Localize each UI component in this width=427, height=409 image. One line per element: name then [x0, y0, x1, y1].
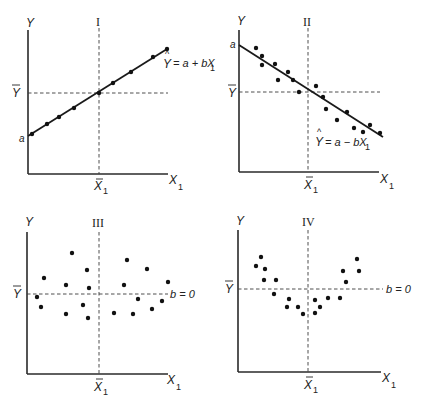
- panel-roman-numeral: II: [303, 15, 311, 29]
- mean-y-label: Y: [225, 282, 234, 296]
- intercept-label: a: [230, 39, 236, 50]
- regression-line: [239, 45, 383, 137]
- regression-panels-figure: Y I Y a X 1 X 1 Y ^ = a + bX 1: [0, 0, 427, 409]
- mean-y-label: Y: [228, 86, 237, 100]
- y-axis-label: Y: [237, 14, 246, 28]
- data-points: [254, 46, 382, 135]
- svg-text:1: 1: [103, 387, 108, 397]
- x-axis-label: X: [379, 172, 389, 186]
- mean-x-label: X: [303, 178, 313, 192]
- svg-text:1: 1: [391, 380, 396, 390]
- panel-4: Y IV Y b = 0 X 1 X 1: [225, 214, 412, 395]
- svg-text:1: 1: [313, 385, 318, 395]
- svg-text:1: 1: [176, 382, 181, 392]
- mean-x-label: X: [93, 380, 103, 394]
- panel-2: Y II a Y X 1 X 1 Y ^ = a − bX 1: [228, 14, 394, 195]
- svg-text:Y: Y: [163, 57, 172, 71]
- svg-text:1: 1: [389, 181, 394, 191]
- data-points: [254, 255, 361, 316]
- x-axis-label: X: [166, 373, 176, 387]
- slope-zero-label: b = 0: [170, 288, 196, 300]
- x-axis-label: X: [381, 371, 391, 385]
- mean-y-label: Y: [13, 287, 22, 301]
- panel-3: Y III Y b = 0 X 1 X 1: [13, 215, 196, 397]
- y-axis-label: Y: [25, 215, 34, 229]
- mean-x-label: X: [93, 179, 103, 193]
- x-axis-label: X: [168, 173, 178, 187]
- y-axis-label: Y: [236, 214, 245, 228]
- panel-roman-numeral: IV: [302, 215, 315, 229]
- equation-label: Y ^ = a + bX 1: [163, 49, 215, 73]
- svg-text:Y: Y: [315, 135, 324, 149]
- svg-text:1: 1: [210, 63, 215, 73]
- svg-text:1: 1: [178, 182, 183, 192]
- svg-text:= a + bX: = a + bX: [173, 57, 215, 69]
- svg-text:= a − bX: = a − bX: [325, 136, 367, 148]
- panel-roman-numeral: III: [92, 216, 104, 230]
- mean-x-label: X: [303, 378, 313, 392]
- slope-zero-label: b = 0: [386, 283, 412, 295]
- mean-y-label: Y: [12, 86, 21, 100]
- svg-text:1: 1: [313, 185, 318, 195]
- data-points: [35, 251, 170, 320]
- intercept-label: a: [19, 133, 25, 144]
- svg-text:1: 1: [103, 186, 108, 196]
- svg-text:1: 1: [365, 142, 370, 152]
- panel-roman-numeral: I: [96, 15, 100, 29]
- y-axis-label: Y: [26, 16, 35, 30]
- panel-1: Y I Y a X 1 X 1 Y ^ = a + bX 1: [12, 15, 215, 196]
